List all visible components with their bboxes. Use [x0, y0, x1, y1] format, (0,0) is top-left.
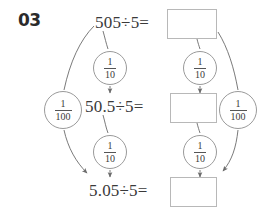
equation-2: 50.5÷5=: [85, 97, 144, 117]
equation-3: 5.05÷5=: [89, 181, 148, 201]
fraction-numerator: 1: [236, 99, 241, 110]
factor-circle-right-hundredth: 1 100: [219, 91, 257, 129]
fraction-numerator: 1: [108, 141, 113, 152]
arrow-eq1-to-left-top-tenth: [103, 31, 108, 49]
factor-circle-right-top-tenth: 1 10: [183, 51, 217, 85]
arrow-eq1-to-left-hundredth: [64, 26, 94, 90]
fraction-one-hundredth: 1 100: [55, 99, 72, 122]
fraction-numerator: 1: [108, 57, 113, 68]
fraction-denominator: 10: [194, 152, 206, 164]
arrow-left-hundredth-to-eq3: [64, 130, 87, 173]
arrow-eq2-to-left-bottom-tenth: [103, 115, 108, 133]
fraction-one-hundredth: 1 100: [230, 99, 247, 122]
fraction-numerator: 1: [198, 141, 203, 152]
factor-circle-left-bottom-tenth: 1 10: [93, 135, 127, 169]
fraction-numerator: 1: [198, 57, 203, 68]
worksheet-problem: 03 505÷5= 50.5÷5= 5.05÷5= 1 10 1 10 1 10…: [0, 0, 276, 223]
fraction-one-tenth: 1 10: [194, 57, 206, 80]
problem-number: 03: [18, 10, 41, 30]
fraction-one-tenth: 1 10: [104, 57, 116, 80]
fraction-denominator: 10: [194, 68, 206, 80]
fraction-one-tenth: 1 10: [194, 141, 206, 164]
answer-box-3[interactable]: [170, 177, 217, 207]
arrow-box2-to-right-bottom-tenth: [197, 123, 200, 133]
arrow-box1-to-right-hundredth: [218, 32, 238, 90]
factor-circle-left-top-tenth: 1 10: [93, 51, 127, 85]
answer-box-2[interactable]: [170, 93, 217, 123]
fraction-numerator: 1: [61, 99, 66, 110]
answer-box-1[interactable]: [167, 9, 217, 39]
arrow-right-hundredth-to-box3: [223, 130, 238, 171]
factor-circle-right-bottom-tenth: 1 10: [183, 135, 217, 169]
fraction-denominator: 100: [55, 110, 72, 122]
fraction-denominator: 10: [104, 152, 116, 164]
fraction-denominator: 10: [104, 68, 116, 80]
factor-circle-left-hundredth: 1 100: [44, 91, 82, 129]
fraction-denominator: 100: [230, 110, 247, 122]
fraction-one-tenth: 1 10: [104, 141, 116, 164]
arrow-box1-to-right-top-tenth: [197, 39, 200, 49]
equation-1: 505÷5=: [95, 13, 149, 33]
